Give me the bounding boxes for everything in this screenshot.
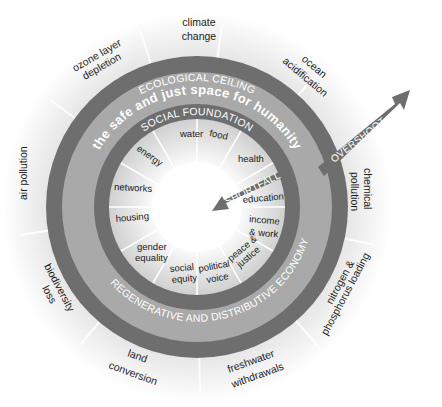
sf-water: water <box>179 128 203 139</box>
inner-center-glow <box>152 162 242 252</box>
sf-health: health <box>238 153 264 164</box>
sf-gender-equality-2: equality <box>135 252 168 263</box>
sf-social-equity-2: equity <box>171 272 197 285</box>
eco-chemical-pollution-2: pollution <box>349 172 361 211</box>
sf-gender-equality-1: gender <box>137 241 167 252</box>
eco-climate-change-2: change <box>182 30 217 42</box>
eco-climate-change-1: climate <box>182 16 215 28</box>
doughnut-diagram: ECOLOGICAL CEILING the safe and just spa… <box>0 0 442 407</box>
eco-chemical-pollution-1: chemical <box>362 168 374 209</box>
sf-networks: networks <box>114 181 153 194</box>
eco-air-pollution: air pollution <box>17 146 29 200</box>
